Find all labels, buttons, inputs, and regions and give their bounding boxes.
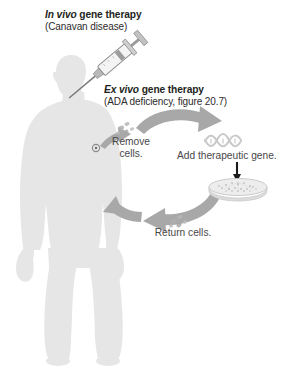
in-vivo-title: In vivo gene therapy bbox=[45, 9, 142, 21]
curved-arrow-to-body-icon bbox=[103, 196, 142, 222]
ex-vivo-title: Ex vivo gene therapy bbox=[104, 84, 227, 96]
step-label-return-cells: Return cells. bbox=[154, 227, 212, 239]
ex-vivo-emphasis: Ex vivo bbox=[104, 84, 139, 95]
cell-clusters-layer bbox=[0, 0, 297, 373]
ex-vivo-subtitle: (ADA deficiency, figure 20.7) bbox=[104, 96, 227, 108]
in-vivo-emphasis: In vivo bbox=[45, 9, 77, 20]
injection-site-icon bbox=[92, 144, 99, 151]
human-silhouette-layer bbox=[0, 0, 297, 373]
petri-dish-icon bbox=[209, 179, 267, 202]
ex-vivo-title-rest: gene therapy bbox=[139, 84, 204, 95]
dish-layer bbox=[0, 0, 297, 373]
in-vivo-subtitle: (Canavan disease) bbox=[45, 21, 142, 33]
in-vivo-title-rest: gene therapy bbox=[77, 9, 142, 20]
dna-helix-icon bbox=[205, 134, 241, 146]
cell-cluster-icon bbox=[116, 121, 135, 135]
dna-layer bbox=[0, 0, 297, 373]
step-label-remove-cells: Remove cells. bbox=[100, 136, 162, 161]
ex-vivo-title-block: Ex vivo gene therapy (ADA deficiency, fi… bbox=[104, 84, 227, 108]
gene-therapy-figure: In vivo gene therapy (Canavan disease) E… bbox=[0, 0, 297, 373]
arrow-down-icon bbox=[233, 162, 241, 182]
cycle-arrows-layer bbox=[0, 0, 297, 373]
step-label-add-gene: Add therapeutic gene. bbox=[177, 150, 297, 162]
syringe-layer bbox=[0, 0, 297, 373]
in-vivo-title-block: In vivo gene therapy (Canavan disease) bbox=[45, 9, 142, 33]
curved-arrow-right-icon bbox=[136, 106, 222, 134]
